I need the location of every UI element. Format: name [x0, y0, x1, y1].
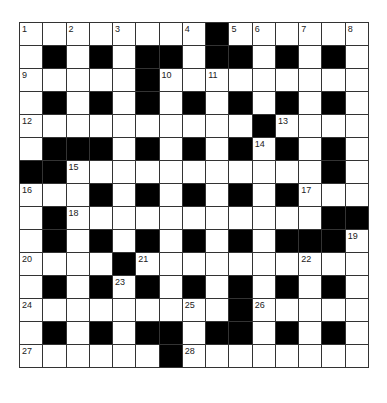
crossword-cell[interactable]: [206, 92, 229, 115]
crossword-cell[interactable]: [20, 276, 43, 299]
crossword-cell[interactable]: [160, 161, 183, 184]
crossword-cell[interactable]: [299, 115, 322, 138]
crossword-cell[interactable]: [183, 253, 206, 276]
crossword-cell[interactable]: [206, 161, 229, 184]
crossword-cell[interactable]: [206, 184, 229, 207]
crossword-cell[interactable]: [43, 69, 66, 92]
crossword-cell[interactable]: [113, 69, 136, 92]
crossword-cell[interactable]: [276, 161, 299, 184]
crossword-cell[interactable]: [206, 138, 229, 161]
crossword-cell[interactable]: 4: [183, 23, 206, 46]
crossword-cell[interactable]: 1: [20, 23, 43, 46]
crossword-cell[interactable]: [253, 207, 276, 230]
crossword-cell[interactable]: [90, 69, 113, 92]
crossword-cell[interactable]: [183, 115, 206, 138]
crossword-cell[interactable]: [183, 46, 206, 69]
crossword-cell[interactable]: [346, 184, 369, 207]
crossword-cell[interactable]: [229, 345, 252, 368]
crossword-cell[interactable]: [183, 69, 206, 92]
crossword-cell[interactable]: [276, 69, 299, 92]
crossword-cell[interactable]: [160, 230, 183, 253]
crossword-cell[interactable]: [253, 230, 276, 253]
crossword-cell[interactable]: [113, 138, 136, 161]
crossword-cell[interactable]: [346, 46, 369, 69]
crossword-cell[interactable]: [113, 207, 136, 230]
crossword-cell[interactable]: [253, 92, 276, 115]
crossword-cell[interactable]: [90, 345, 113, 368]
crossword-cell[interactable]: [20, 230, 43, 253]
crossword-cell[interactable]: [160, 138, 183, 161]
crossword-cell[interactable]: [229, 207, 252, 230]
crossword-cell[interactable]: [322, 299, 345, 322]
crossword-cell[interactable]: [346, 115, 369, 138]
crossword-cell[interactable]: [206, 299, 229, 322]
crossword-cell[interactable]: 11: [206, 69, 229, 92]
crossword-cell[interactable]: [90, 23, 113, 46]
crossword-cell[interactable]: [113, 345, 136, 368]
crossword-cell[interactable]: 16: [20, 184, 43, 207]
crossword-cell[interactable]: [160, 276, 183, 299]
crossword-cell[interactable]: [276, 299, 299, 322]
crossword-cell[interactable]: [276, 253, 299, 276]
crossword-cell[interactable]: [160, 92, 183, 115]
crossword-cell[interactable]: 19: [346, 230, 369, 253]
crossword-cell[interactable]: [299, 46, 322, 69]
crossword-cell[interactable]: [67, 345, 90, 368]
crossword-cell[interactable]: [346, 69, 369, 92]
crossword-cell[interactable]: [113, 184, 136, 207]
crossword-cell[interactable]: 23: [113, 276, 136, 299]
crossword-cell[interactable]: [346, 345, 369, 368]
crossword-cell[interactable]: [206, 253, 229, 276]
crossword-cell[interactable]: 17: [299, 184, 322, 207]
crossword-cell[interactable]: [322, 253, 345, 276]
crossword-cell[interactable]: [67, 92, 90, 115]
crossword-cell[interactable]: [253, 184, 276, 207]
crossword-cell[interactable]: [90, 253, 113, 276]
crossword-cell[interactable]: [322, 184, 345, 207]
crossword-cell[interactable]: [253, 345, 276, 368]
crossword-cell[interactable]: [299, 322, 322, 345]
crossword-cell[interactable]: 12: [20, 115, 43, 138]
crossword-cell[interactable]: [346, 253, 369, 276]
crossword-cell[interactable]: [299, 138, 322, 161]
crossword-cell[interactable]: [346, 161, 369, 184]
crossword-cell[interactable]: 6: [253, 23, 276, 46]
crossword-cell[interactable]: 7: [299, 23, 322, 46]
crossword-cell[interactable]: [346, 322, 369, 345]
crossword-cell[interactable]: [20, 46, 43, 69]
crossword-cell[interactable]: [160, 23, 183, 46]
crossword-cell[interactable]: [322, 115, 345, 138]
crossword-cell[interactable]: [183, 207, 206, 230]
crossword-cell[interactable]: [229, 253, 252, 276]
crossword-cell[interactable]: [160, 253, 183, 276]
crossword-cell[interactable]: [299, 161, 322, 184]
crossword-cell[interactable]: [276, 345, 299, 368]
crossword-cell[interactable]: [67, 230, 90, 253]
crossword-cell[interactable]: [322, 23, 345, 46]
crossword-cell[interactable]: 28: [183, 345, 206, 368]
crossword-cell[interactable]: [253, 253, 276, 276]
crossword-cell[interactable]: [206, 207, 229, 230]
crossword-cell[interactable]: [253, 322, 276, 345]
crossword-cell[interactable]: [113, 230, 136, 253]
crossword-cell[interactable]: [136, 207, 159, 230]
crossword-cell[interactable]: [67, 322, 90, 345]
crossword-cell[interactable]: 20: [20, 253, 43, 276]
crossword-cell[interactable]: [160, 115, 183, 138]
crossword-cell[interactable]: [90, 161, 113, 184]
crossword-cell[interactable]: [136, 23, 159, 46]
crossword-cell[interactable]: [183, 161, 206, 184]
crossword-cell[interactable]: [43, 345, 66, 368]
crossword-cell[interactable]: [229, 69, 252, 92]
crossword-cell[interactable]: [67, 253, 90, 276]
crossword-cell[interactable]: [346, 276, 369, 299]
crossword-cell[interactable]: [160, 299, 183, 322]
crossword-cell[interactable]: [20, 92, 43, 115]
crossword-cell[interactable]: [322, 69, 345, 92]
crossword-cell[interactable]: 21: [136, 253, 159, 276]
crossword-cell[interactable]: [253, 161, 276, 184]
crossword-cell[interactable]: [113, 46, 136, 69]
crossword-cell[interactable]: 14: [253, 138, 276, 161]
crossword-cell[interactable]: [346, 299, 369, 322]
crossword-cell[interactable]: [206, 230, 229, 253]
